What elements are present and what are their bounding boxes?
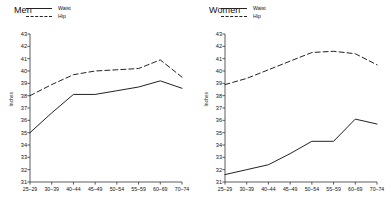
series-line-waist	[30, 81, 182, 133]
y-axis-label: Inches	[204, 81, 210, 117]
x-axis-tick-label: 55–59	[326, 186, 340, 192]
legend-label-waist: Waist	[253, 5, 266, 12]
series-line-hip	[30, 60, 182, 96]
waist-hip-figure: Men Inches 3132333435363738394041424325–…	[0, 0, 391, 211]
line-swatch-solid-icon	[26, 5, 52, 11]
y-axis-tick-label: 37	[21, 105, 27, 111]
legend-women: Waist Hip	[221, 4, 266, 20]
x-axis-tick-label: 60–69	[348, 186, 362, 192]
y-axis-tick-label: 39	[216, 80, 222, 86]
y-axis-tick-label: 32	[21, 167, 27, 173]
x-axis-tick-label: 25–29	[218, 186, 232, 192]
x-axis-tick-label: 50–54	[305, 186, 319, 192]
plot-area-women: 3132333435363738394041424325–2930–3940–4…	[225, 34, 377, 182]
x-axis-tick-label: 30–39	[44, 186, 58, 192]
chart-svg	[225, 34, 377, 182]
y-axis-tick-label: 35	[216, 130, 222, 136]
chart-panel-women: Women Inches 313233343536373839404142432…	[195, 0, 390, 211]
x-axis-tick-label: 30–39	[239, 186, 253, 192]
y-axis-tick-label: 40	[21, 68, 27, 74]
x-axis-tick-label: 55–59	[131, 186, 145, 192]
legend-item-hip: Hip	[221, 12, 266, 20]
legend-label-hip: Hip	[253, 13, 261, 20]
line-swatch-dashed-icon	[26, 13, 52, 19]
y-axis-tick-label: 41	[21, 56, 27, 62]
x-axis-tick-label: 25–29	[23, 186, 37, 192]
y-axis-tick-label: 41	[216, 56, 222, 62]
y-axis-tick-label: 31	[21, 179, 27, 185]
y-axis-tick-label: 43	[21, 31, 27, 37]
y-axis-tick-label: 36	[216, 117, 222, 123]
line-swatch-solid-icon	[221, 5, 247, 11]
y-axis-label: Inches	[9, 81, 15, 117]
x-axis-tick-label: 50–54	[110, 186, 124, 192]
y-axis-tick-label: 36	[21, 117, 27, 123]
y-axis-tick-label: 37	[216, 105, 222, 111]
chart-svg	[30, 34, 182, 182]
series-line-waist	[225, 119, 377, 175]
y-axis-tick-label: 38	[216, 93, 222, 99]
legend-label-hip: Hip	[58, 13, 66, 20]
legend-men: Waist Hip	[26, 4, 71, 20]
y-axis-tick-label: 34	[21, 142, 27, 148]
y-axis-tick-label: 33	[21, 154, 27, 160]
y-axis-tick-label: 34	[216, 142, 222, 148]
x-axis-tick-label: 40–44	[261, 186, 275, 192]
y-axis-tick-label: 31	[216, 179, 222, 185]
y-axis-tick-label: 39	[21, 80, 27, 86]
y-axis-tick-label: 43	[216, 31, 222, 37]
legend-item-waist: Waist	[26, 4, 71, 12]
x-axis-tick-label: 70–74	[370, 186, 384, 192]
line-swatch-dashed-icon	[221, 13, 247, 19]
legend-label-waist: Waist	[58, 5, 71, 12]
chart-panel-men: Men Inches 3132333435363738394041424325–…	[0, 0, 195, 211]
y-axis-tick-label: 38	[21, 93, 27, 99]
x-axis-tick-label: 60–69	[153, 186, 167, 192]
y-axis-tick-label: 32	[216, 167, 222, 173]
series-line-hip	[225, 51, 377, 84]
y-axis-tick-label: 42	[216, 43, 222, 49]
y-axis-tick-label: 33	[216, 154, 222, 160]
x-axis-tick-label: 40–44	[66, 186, 80, 192]
legend-item-hip: Hip	[26, 12, 71, 20]
x-axis-tick-label: 45–49	[88, 186, 102, 192]
y-axis-tick-label: 40	[216, 68, 222, 74]
y-axis-tick-label: 35	[21, 130, 27, 136]
x-axis-tick-label: 70–74	[175, 186, 189, 192]
legend-item-waist: Waist	[221, 4, 266, 12]
plot-area-men: 3132333435363738394041424325–2930–3940–4…	[30, 34, 182, 182]
y-axis-tick-label: 42	[21, 43, 27, 49]
x-axis-tick-label: 45–49	[283, 186, 297, 192]
